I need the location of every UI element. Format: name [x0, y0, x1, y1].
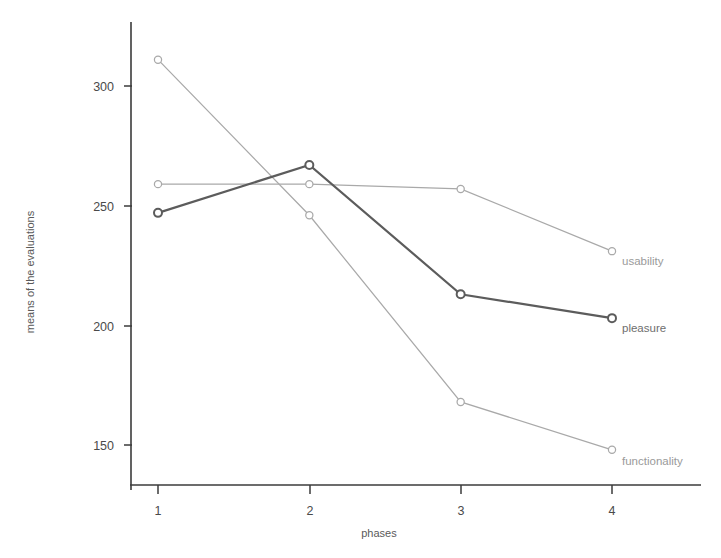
y-tick-label-200: 200 — [93, 320, 114, 334]
series-label-usability: usability — [622, 255, 664, 267]
series-pleasure — [154, 161, 616, 322]
series-layer — [154, 56, 616, 453]
chart-canvas: 300 250 200 150 1 2 3 4 phases means of … — [0, 0, 721, 558]
data-point-pleasure-1 — [154, 209, 162, 217]
data-point-pleasure-4 — [608, 314, 616, 322]
x-tick-label-1: 1 — [155, 504, 162, 518]
x-tick-label-3: 3 — [458, 504, 465, 518]
series-label-pleasure: pleasure — [622, 322, 666, 334]
y-tick-label-150: 150 — [93, 439, 114, 453]
series-line-usability — [158, 184, 612, 251]
x-axis-ticks — [158, 485, 612, 494]
data-point-functionality-3 — [457, 398, 464, 405]
y-tick-label-300: 300 — [93, 80, 114, 94]
series-label-functionality: functionality — [622, 455, 683, 467]
data-point-pleasure-2 — [305, 161, 313, 169]
line-chart: 300 250 200 150 1 2 3 4 phases means of … — [0, 0, 721, 558]
data-point-functionality-4 — [608, 446, 615, 453]
data-point-usability-1 — [154, 181, 161, 188]
series-functionality — [154, 56, 615, 453]
x-axis-title: phases — [361, 527, 397, 539]
data-point-pleasure-3 — [457, 290, 465, 298]
x-tick-label-2: 2 — [307, 504, 314, 518]
series-line-pleasure — [158, 165, 612, 318]
series-line-functionality — [158, 60, 612, 450]
data-point-usability-4 — [608, 248, 615, 255]
data-point-usability-2 — [306, 181, 313, 188]
data-point-functionality-1 — [154, 56, 161, 63]
y-axis-title: means of the evaluations — [24, 210, 36, 333]
data-point-usability-3 — [457, 185, 464, 192]
data-point-functionality-2 — [306, 212, 313, 219]
y-tick-label-250: 250 — [93, 200, 114, 214]
x-tick-label-4: 4 — [609, 504, 616, 518]
